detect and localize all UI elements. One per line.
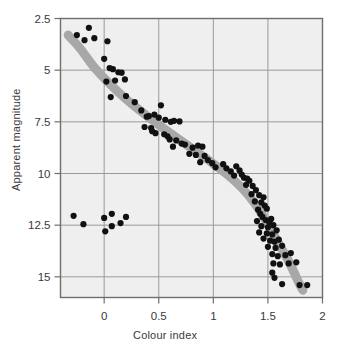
data-point [271, 275, 277, 281]
data-point [108, 94, 114, 100]
data-point [117, 220, 123, 226]
data-point [231, 172, 237, 178]
data-point [256, 229, 262, 235]
x-axis-title: Colour index [133, 329, 197, 341]
data-point [279, 243, 285, 249]
x-axis-tick-label: 2 [319, 310, 325, 322]
data-point [86, 25, 92, 31]
data-point [304, 282, 310, 288]
data-point [80, 221, 86, 227]
data-point [170, 144, 176, 150]
data-point [110, 66, 116, 72]
data-point [167, 136, 173, 142]
data-point [296, 282, 302, 288]
x-axis-tick-label: 0 [101, 310, 107, 322]
data-point [119, 70, 125, 76]
y-axis-tick-label: 12.5 [28, 219, 50, 231]
data-point [141, 124, 147, 130]
data-point [123, 214, 129, 220]
data-point [276, 237, 282, 243]
data-point [176, 118, 182, 124]
data-point [173, 137, 179, 143]
data-point [274, 227, 280, 233]
data-point [81, 37, 87, 43]
data-point [132, 99, 138, 105]
data-point [265, 244, 271, 250]
data-point [138, 107, 144, 113]
data-point [122, 76, 128, 82]
y-axis-tick-label: 10 [38, 168, 51, 180]
data-point [158, 102, 164, 108]
data-point [189, 145, 195, 151]
data-point [279, 281, 285, 287]
y-axis-tick-label: 2.5 [35, 13, 51, 25]
data-point [265, 224, 271, 230]
data-point [197, 159, 203, 165]
color-magnitude-diagram: 00.511.522.557.51012.515 [0, 0, 346, 351]
data-point [277, 261, 283, 267]
data-point [104, 38, 110, 44]
data-point [74, 32, 80, 38]
data-point [101, 215, 107, 221]
data-point [152, 130, 158, 136]
data-point [243, 182, 249, 188]
y-axis-tick-label: 5 [44, 64, 50, 76]
data-point [252, 198, 258, 204]
data-point [269, 251, 275, 257]
data-point [123, 93, 129, 99]
data-point [109, 211, 115, 217]
data-point [248, 191, 254, 197]
data-point [171, 118, 177, 124]
data-point [101, 56, 107, 62]
data-point [275, 253, 281, 259]
data-point [212, 164, 218, 170]
data-point [258, 223, 264, 229]
data-point [282, 252, 288, 258]
x-axis-tick-label: 1.5 [260, 310, 276, 322]
data-point [272, 245, 278, 251]
data-point [264, 206, 270, 212]
data-point [193, 152, 199, 158]
data-point [254, 218, 260, 224]
data-point [288, 250, 294, 256]
data-point [270, 222, 276, 228]
data-point [71, 213, 77, 219]
chart-figure: 00.511.522.557.51012.515 Apparent magnit… [0, 0, 346, 351]
y-axis-tick-label: 15 [38, 271, 51, 283]
data-point [264, 230, 270, 236]
data-point [268, 216, 274, 222]
data-point [270, 260, 276, 266]
data-point [293, 259, 299, 265]
data-point [146, 113, 152, 119]
data-point [102, 228, 108, 234]
data-point [91, 35, 97, 41]
data-point [286, 260, 292, 266]
data-point [112, 77, 118, 83]
data-point [162, 117, 168, 123]
data-point [182, 141, 188, 147]
data-point [156, 115, 162, 121]
data-point [199, 144, 205, 150]
y-axis-title: Apparent magnitude [10, 91, 22, 191]
data-point [103, 78, 109, 84]
data-point [109, 223, 115, 229]
y-axis-tick-label: 7.5 [35, 116, 51, 128]
x-axis-tick-label: 1 [210, 310, 216, 322]
x-axis-tick-label: 0.5 [151, 310, 167, 322]
data-point [186, 151, 192, 157]
data-point [260, 236, 266, 242]
